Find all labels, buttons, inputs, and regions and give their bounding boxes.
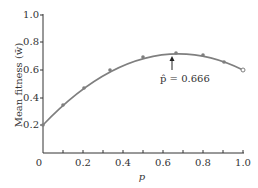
y-axis-title: Mean fitness (w̄) <box>13 43 24 128</box>
svg-text:0.8: 0.8 <box>195 157 211 168</box>
svg-text:0.6: 0.6 <box>23 64 39 75</box>
svg-text:0.4: 0.4 <box>115 157 131 168</box>
svg-text:0.4: 0.4 <box>23 92 39 103</box>
peak-annotation: p̂ = 0.666 <box>160 56 210 84</box>
x-tick-labels: 0 0.2 0.4 0.6 0.8 1.0 <box>36 157 251 168</box>
svg-text:0: 0 <box>36 157 42 168</box>
svg-text:1.0: 1.0 <box>235 157 251 168</box>
y-axis <box>40 14 43 153</box>
x-axis-title: p <box>139 171 146 182</box>
svg-text:0.8: 0.8 <box>23 36 39 47</box>
x-axis <box>43 150 244 153</box>
fitness-curve <box>43 54 243 125</box>
svg-text:0.2: 0.2 <box>23 119 39 130</box>
y-tick-labels: 1.0 0.8 0.6 0.4 0.2 <box>23 9 39 130</box>
svg-text:p̂ = 0.666: p̂ = 0.666 <box>160 73 210 84</box>
svg-text:1.0: 1.0 <box>23 9 39 20</box>
endpoint-marker <box>241 68 245 72</box>
svg-text:0.2: 0.2 <box>75 157 91 168</box>
chart: 1.0 0.8 0.6 0.4 0.2 0 0.2 0.4 0.6 0.8 1.… <box>0 0 258 188</box>
svg-text:0.6: 0.6 <box>155 157 171 168</box>
